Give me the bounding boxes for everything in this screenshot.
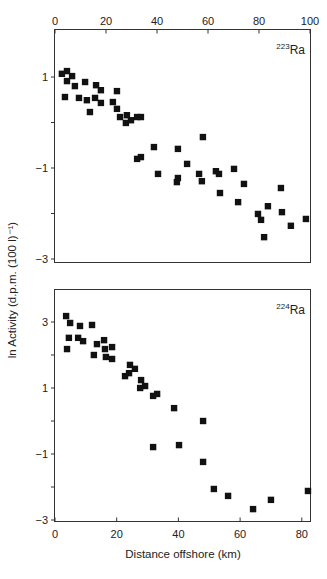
data-point-square [109, 344, 115, 350]
data-point-square [151, 144, 157, 150]
data-point-square [117, 114, 123, 120]
data-point-square [138, 377, 144, 383]
y-axis-label: ln Activity (d.p.m. (100 l)⁻¹) [6, 222, 18, 359]
bottom-y-axis: 31−1−3 [35, 316, 55, 526]
bottom-isotope-label: 224Ra [276, 302, 305, 317]
x-tick-label: 20 [100, 15, 112, 27]
data-point-square [82, 79, 88, 85]
data-point-square [91, 352, 97, 358]
top-data-points [59, 68, 309, 240]
data-point-square [261, 234, 267, 240]
top-x-axis: 020406080100 [52, 15, 319, 34]
data-point-square [199, 178, 205, 184]
data-point-square [174, 179, 180, 185]
data-point-square [103, 354, 109, 360]
data-point-square [138, 114, 144, 120]
data-point-square [110, 99, 116, 105]
data-point-square [64, 346, 70, 352]
data-point-square [114, 88, 120, 94]
data-point-square [268, 497, 274, 503]
data-point-square [64, 78, 70, 84]
data-point-square [155, 171, 161, 177]
data-point-square [102, 346, 108, 352]
top-chart-panel: 020406080100 1−1−3 223Ra [35, 15, 319, 266]
top-chart-frame [55, 30, 311, 263]
y-tick-label: −3 [35, 253, 48, 265]
data-point-square [279, 209, 285, 215]
data-point-square [154, 391, 160, 397]
data-point-square [235, 199, 241, 205]
data-point-square [225, 493, 231, 499]
data-point-square [184, 161, 190, 167]
y-tick-label: −1 [35, 162, 48, 174]
x-tick-label: 100 [301, 15, 319, 27]
figure: 020406080100 1−1−3 223Ra 020406080 31−1−… [0, 0, 327, 579]
data-point-square [77, 323, 83, 329]
data-point-square [109, 356, 115, 362]
x-tick-label: 0 [52, 15, 58, 27]
data-point-square [89, 322, 95, 328]
data-point-square [94, 341, 100, 347]
data-point-square [66, 335, 72, 341]
data-point-square [72, 83, 78, 89]
data-point-square [80, 338, 86, 344]
data-point-square [132, 366, 138, 372]
x-tick-label: 0 [52, 528, 58, 540]
x-tick-label: 40 [151, 15, 163, 27]
data-point-square [200, 459, 206, 465]
y-tick-label: 1 [42, 382, 48, 394]
data-point-square [217, 190, 223, 196]
data-point-square [305, 488, 311, 494]
data-point-square [216, 171, 222, 177]
data-point-square [84, 97, 90, 103]
top-isotope-label: 223Ra [276, 42, 305, 57]
x-tick-label: 40 [172, 528, 184, 540]
data-point-square [67, 320, 73, 326]
y-tick-label: 3 [42, 316, 48, 328]
data-point-square [288, 223, 294, 229]
data-point-square [255, 211, 261, 217]
data-point-square [87, 109, 93, 115]
x-tick-label: 20 [111, 528, 123, 540]
data-point-square [138, 154, 144, 160]
data-point-square [241, 181, 247, 187]
x-tick-label: 60 [202, 15, 214, 27]
x-tick-label: 60 [234, 528, 246, 540]
data-point-square [150, 444, 156, 450]
data-point-square [265, 203, 271, 209]
data-point-square [137, 385, 143, 391]
y-tick-label: −1 [35, 448, 48, 460]
data-point-square [92, 95, 98, 101]
y-tick-label: 1 [42, 71, 48, 83]
x-tick-label: 80 [296, 528, 308, 540]
data-point-square [176, 442, 182, 448]
data-point-square [200, 134, 206, 140]
data-point-square [123, 120, 129, 126]
data-point-square [196, 171, 202, 177]
top-y-axis: 1−1−3 [35, 71, 55, 265]
data-point-square [76, 95, 82, 101]
data-point-square [278, 185, 284, 191]
data-point-square [175, 146, 181, 152]
data-point-square [59, 71, 65, 77]
data-point-square [200, 418, 206, 424]
data-point-square [122, 373, 128, 379]
data-point-square [98, 100, 104, 106]
data-point-square [98, 87, 104, 93]
data-point-square [303, 216, 309, 222]
data-point-square [63, 313, 69, 319]
data-point-square [211, 486, 217, 492]
data-point-square [62, 94, 68, 100]
data-point-square [171, 405, 177, 411]
bottom-data-points [63, 313, 311, 512]
bottom-x-axis: 020406080 [52, 518, 308, 540]
data-point-square [101, 337, 107, 343]
x-axis-label: Distance offshore (km) [125, 548, 241, 560]
data-point-square [250, 506, 256, 512]
data-point-square [258, 217, 264, 223]
y-tick-label: −3 [35, 514, 48, 526]
data-point-square [114, 106, 120, 112]
data-point-square [231, 166, 237, 172]
bottom-chart-panel: 020406080 31−1−3 224Ra [35, 290, 311, 540]
x-tick-label: 80 [253, 15, 265, 27]
